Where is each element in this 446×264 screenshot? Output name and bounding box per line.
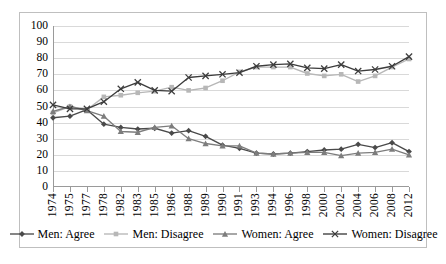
y-tick-label: 0 — [42, 181, 48, 193]
legend-swatch-triangle-icon — [212, 228, 238, 240]
x-tick — [256, 187, 257, 192]
x-tick-label: 1996 — [284, 193, 296, 217]
series-layer — [53, 26, 409, 187]
data-point-diamond — [355, 141, 361, 147]
x-tick — [273, 187, 274, 192]
x-tick-label: 1982 — [115, 193, 127, 217]
legend-label: Women: Agree — [241, 228, 313, 240]
x-tick-label: 2012 — [403, 193, 415, 217]
x-tick-label: 1993 — [250, 193, 262, 217]
series-3 — [50, 103, 412, 158]
x-tick-label: 1991 — [233, 193, 245, 217]
x-tick — [307, 187, 308, 192]
x-tick — [375, 187, 376, 192]
data-point-diamond — [67, 113, 73, 119]
x-tick-label: 1978 — [98, 193, 110, 217]
data-point-diamond — [389, 140, 395, 146]
data-point-square — [339, 72, 344, 77]
x-tick — [104, 187, 105, 192]
x-tick-label: 1977 — [81, 193, 93, 217]
x-tick-label: 1983 — [132, 193, 144, 217]
x-tick-label: 1998 — [301, 193, 313, 217]
x-tick — [138, 187, 139, 192]
y-tick-label: 40 — [37, 117, 49, 129]
data-point-square — [203, 86, 208, 91]
x-tick — [155, 187, 156, 192]
data-point-square — [322, 74, 327, 79]
data-point-x — [101, 99, 107, 105]
x-tick-label: 1990 — [217, 193, 229, 217]
x-tick — [392, 187, 393, 192]
chart-legend: Men: AgreeMen: DisagreeWomen: AgreeWomen… — [20, 228, 426, 240]
x-tick-label: 2004 — [352, 193, 364, 217]
x-tick-label: 1975 — [64, 193, 76, 217]
x-tick — [223, 187, 224, 192]
data-point-square — [119, 93, 124, 98]
data-point-square — [102, 95, 107, 100]
y-tick-label: 60 — [37, 85, 49, 97]
legend-swatch-x-icon — [322, 228, 348, 240]
data-point-square — [186, 88, 191, 93]
data-point-square — [356, 79, 361, 84]
legend-label: Men: Disagree — [132, 228, 203, 240]
data-point-diamond — [19, 231, 25, 237]
x-tick-label: 1994 — [267, 193, 279, 217]
y-tick-label: 50 — [37, 101, 49, 113]
x-tick — [341, 187, 342, 192]
data-point-square — [373, 74, 378, 79]
data-point-diamond — [186, 128, 192, 134]
x-axis-ticks — [53, 187, 409, 192]
data-point-square — [305, 71, 310, 76]
series-2 — [51, 57, 412, 116]
legend-label: Men: Agree — [38, 228, 95, 240]
plot-area: 1009080706050403020100 — [53, 26, 409, 187]
data-point-diamond — [50, 115, 56, 121]
data-point-x — [135, 79, 141, 85]
x-tick-label: 2008 — [386, 193, 398, 217]
legend-item-4[interactable]: Women: Disagree — [322, 228, 437, 240]
x-tick — [239, 187, 240, 192]
legend-item-3[interactable]: Women: Agree — [212, 228, 313, 240]
legend-swatch-square-icon — [103, 228, 129, 240]
chart-container: 1009080706050403020100 19741975197719781… — [19, 12, 427, 248]
legend-item-1[interactable]: Men: Agree — [9, 228, 95, 240]
y-tick-label: 90 — [37, 36, 49, 48]
y-tick-label: 30 — [37, 133, 49, 145]
x-tick-label: 1986 — [166, 193, 178, 217]
legend-label: Women: Disagree — [351, 228, 437, 240]
x-tick — [189, 187, 190, 192]
data-point-diamond — [338, 146, 344, 152]
y-tick-label: 20 — [37, 149, 49, 161]
data-point-square — [220, 78, 225, 83]
data-point-x — [118, 86, 124, 92]
y-tick-label: 10 — [37, 165, 49, 177]
x-tick — [290, 187, 291, 192]
x-tick — [324, 187, 325, 192]
x-tick-label: 1974 — [47, 193, 59, 217]
x-tick — [53, 187, 54, 192]
data-point-diamond — [203, 133, 209, 139]
y-tick-label: 70 — [37, 69, 49, 81]
x-tick-label: 2006 — [369, 193, 381, 217]
series-line — [53, 57, 409, 109]
x-tick — [121, 187, 122, 192]
x-tick-label: 1985 — [149, 193, 161, 217]
x-tick — [70, 187, 71, 192]
x-tick-label: 2002 — [335, 193, 347, 217]
series-line — [53, 110, 409, 154]
legend-item-2[interactable]: Men: Disagree — [103, 228, 203, 240]
y-tick-label: 80 — [37, 52, 49, 64]
x-tick-label: 1989 — [200, 193, 212, 217]
series-line — [53, 107, 409, 156]
data-point-square — [135, 91, 140, 96]
y-tick-label: 100 — [31, 20, 48, 32]
x-tick — [358, 187, 359, 192]
x-tick — [87, 187, 88, 192]
x-tick — [172, 187, 173, 192]
x-tick — [409, 187, 410, 192]
x-tick-label: 2000 — [318, 193, 330, 217]
x-tick-label: 1988 — [183, 193, 195, 217]
legend-swatch-diamond-icon — [9, 228, 35, 240]
x-tick — [206, 187, 207, 192]
data-point-diamond — [169, 130, 175, 136]
